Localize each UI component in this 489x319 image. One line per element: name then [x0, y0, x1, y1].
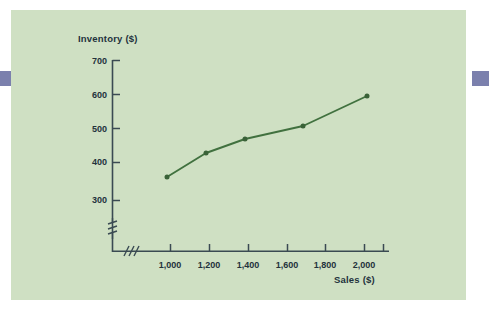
data-point: [243, 137, 248, 142]
data-markers: [165, 94, 370, 180]
data-point: [365, 94, 370, 99]
line-chart: Inventory ($) Sales ($) 700 600 500 400 …: [11, 10, 466, 300]
data-point: [165, 175, 170, 180]
y-axis-ticks: [113, 61, 121, 201]
data-point: [204, 151, 209, 156]
data-point: [301, 124, 306, 129]
page-root: Inventory ($) Sales ($) 700 600 500 400 …: [0, 0, 489, 319]
right-edge-tab: [472, 71, 489, 86]
x-axis-break-icon: [124, 246, 139, 256]
figure-card: Inventory ($) Sales ($) 700 600 500 400 …: [11, 10, 466, 300]
x-axis-ticks: [171, 244, 384, 251]
data-line-inventory: [167, 96, 367, 177]
chart-canvas: [11, 10, 466, 300]
